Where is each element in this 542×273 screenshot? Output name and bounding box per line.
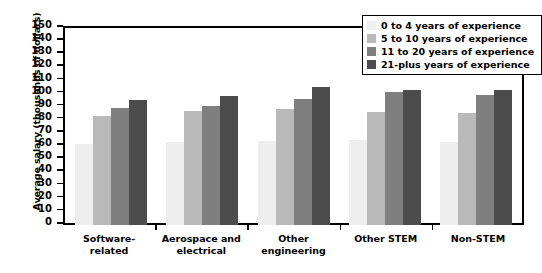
bar — [93, 116, 111, 225]
bar — [184, 111, 202, 225]
bar — [440, 142, 458, 225]
y-axis-tick-mark — [57, 64, 63, 66]
y-axis-tick-label: 90 — [0, 98, 52, 110]
bar — [367, 112, 385, 225]
bar-group — [248, 28, 339, 225]
x-axis-labels: Software-relatedAerospace and electrical… — [63, 233, 524, 269]
legend-label: 0 to 4 years of experience — [381, 20, 521, 31]
bar — [494, 90, 512, 225]
bar — [476, 95, 494, 225]
y-axis-tick-label: 50 — [0, 150, 52, 162]
bar — [111, 108, 129, 225]
bar — [403, 90, 421, 225]
y-axis-tick-mark — [57, 38, 63, 40]
legend-swatch-icon — [367, 21, 376, 30]
legend-item: 11 to 20 years of experience — [367, 45, 534, 58]
y-axis-tick-mark — [57, 222, 63, 224]
bar — [220, 96, 238, 225]
y-axis-tick-mark — [57, 130, 63, 132]
bar — [458, 113, 476, 225]
y-axis-tick-mark — [57, 156, 63, 158]
x-axis-tick-label: Other STEM — [340, 233, 432, 269]
legend-label: 11 to 20 years of experience — [381, 46, 534, 57]
bar — [385, 92, 403, 225]
y-axis-tick-label: 130 — [0, 45, 52, 57]
y-axis-tick-label: 110 — [0, 72, 52, 84]
y-axis-tick-mark — [57, 209, 63, 211]
x-axis-tick-mark — [340, 225, 342, 230]
legend-item: 21-plus years of experience — [367, 58, 534, 71]
legend-swatch-icon — [367, 34, 376, 43]
x-axis-tick-label: Software-related — [63, 233, 155, 269]
y-axis-tick-label: 140 — [0, 32, 52, 44]
y-axis-tick-mark — [57, 91, 63, 93]
y-axis-tick-label: 150 — [0, 19, 52, 31]
bar — [129, 100, 147, 225]
y-axis-tick-label: 40 — [0, 163, 52, 175]
y-axis-tick-mark — [57, 183, 63, 185]
bar — [294, 99, 312, 225]
bar — [75, 144, 93, 225]
y-axis-tick-label: 80 — [0, 111, 52, 123]
bar — [312, 87, 330, 225]
x-axis-ticks — [63, 225, 524, 231]
bar-group — [156, 28, 247, 225]
bar — [258, 141, 276, 225]
x-axis-tick-label: Aerospace and electrical — [155, 233, 247, 269]
y-axis-tick-label: 10 — [0, 203, 52, 215]
y-axis-tick-mark — [57, 104, 63, 106]
legend: 0 to 4 years of experience 5 to 10 years… — [362, 15, 542, 75]
x-axis-tick-mark — [247, 225, 249, 230]
legend-label: 21-plus years of experience — [381, 59, 530, 70]
y-axis-tick-mark — [57, 25, 63, 27]
y-axis-tick-label: 60 — [0, 137, 52, 149]
y-axis-tick-label: 0 — [0, 216, 52, 228]
y-axis-tick-mark — [57, 196, 63, 198]
y-axis-tick-mark — [57, 169, 63, 171]
bar-group — [65, 28, 156, 225]
x-axis-tick-label: Other engineering — [247, 233, 339, 269]
legend-swatch-icon — [367, 60, 376, 69]
x-axis-tick-mark — [432, 225, 434, 230]
bar — [202, 106, 220, 226]
y-axis-tick-label: 100 — [0, 85, 52, 97]
bar — [349, 140, 367, 225]
x-axis-tick-mark — [155, 225, 157, 230]
y-axis-tick-label: 70 — [0, 124, 52, 136]
bar — [166, 142, 184, 225]
y-axis-tick-mark — [57, 51, 63, 53]
y-axis-tick-label: 20 — [0, 190, 52, 202]
bar — [276, 109, 294, 225]
y-axis-tick-mark — [57, 143, 63, 145]
y-axis-tick-mark — [57, 78, 63, 80]
legend-label: 5 to 10 years of experience — [381, 33, 528, 44]
y-axis-tick-label: 120 — [0, 58, 52, 70]
x-axis-tick-label: Non-STEM — [432, 233, 524, 269]
legend-item: 0 to 4 years of experience — [367, 19, 534, 32]
legend-swatch-icon — [367, 47, 376, 56]
y-axis-tick-label: 30 — [0, 177, 52, 189]
y-axis-tick-mark — [57, 117, 63, 119]
legend-item: 5 to 10 years of experience — [367, 32, 534, 45]
